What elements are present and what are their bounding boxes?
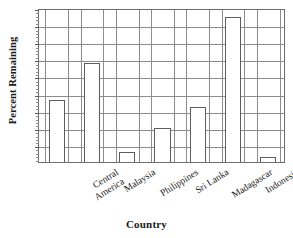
gridline-horizontal xyxy=(39,27,284,28)
y-tick-mark xyxy=(35,44,39,45)
bar xyxy=(84,63,100,162)
gridline-horizontal xyxy=(39,113,284,114)
y-minor-tick-mark xyxy=(36,137,39,138)
y-tick-mark xyxy=(35,96,39,97)
y-minor-tick-mark xyxy=(36,154,39,155)
y-minor-tick-mark xyxy=(36,143,39,144)
y-minor-tick-mark xyxy=(36,140,39,141)
y-minor-tick-mark xyxy=(36,157,39,158)
y-minor-tick-mark xyxy=(36,109,39,110)
gridline-vertical xyxy=(186,10,187,162)
y-minor-tick-mark xyxy=(36,92,39,93)
x-tick-label: Sri Lanka xyxy=(193,167,230,196)
bar xyxy=(190,107,206,162)
gridline-vertical xyxy=(139,10,140,162)
y-minor-tick-mark xyxy=(36,20,39,21)
y-minor-tick-mark xyxy=(36,99,39,100)
bar xyxy=(119,152,135,162)
x-tick-label-line: Sri Lanka xyxy=(193,167,230,196)
y-tick-mark xyxy=(35,27,39,28)
y-tick-mark xyxy=(35,130,39,131)
gridline-horizontal xyxy=(39,78,284,79)
gridline-horizontal xyxy=(39,61,284,62)
y-minor-tick-mark xyxy=(36,102,39,103)
y-minor-tick-mark xyxy=(36,126,39,127)
gridline-vertical xyxy=(68,10,69,162)
y-tick-mark xyxy=(35,147,39,148)
y-tick-mark xyxy=(35,10,39,11)
x-tick-label: Philippines xyxy=(159,167,201,199)
x-tick-label: CentralAmerica xyxy=(87,167,126,202)
y-minor-tick-mark xyxy=(36,85,39,86)
bar xyxy=(225,17,241,162)
gridline-horizontal xyxy=(39,44,284,45)
y-minor-tick-mark xyxy=(36,106,39,107)
y-minor-tick-mark xyxy=(36,82,39,83)
y-tick-mark xyxy=(35,113,39,114)
gridline-vertical xyxy=(222,10,223,162)
y-minor-tick-mark xyxy=(36,41,39,42)
y-minor-tick-mark xyxy=(36,51,39,52)
y-minor-tick-mark xyxy=(36,48,39,49)
x-axis-title: Country xyxy=(0,218,293,230)
bar xyxy=(49,100,65,162)
y-minor-tick-mark xyxy=(36,31,39,32)
y-tick-mark xyxy=(35,61,39,62)
y-minor-tick-mark xyxy=(36,89,39,90)
y-minor-tick-mark xyxy=(36,13,39,14)
gridline-vertical xyxy=(103,10,104,162)
gridline-vertical xyxy=(280,10,281,162)
bar xyxy=(154,128,170,162)
y-minor-tick-mark xyxy=(36,116,39,117)
y-minor-tick-mark xyxy=(36,68,39,69)
gridline-vertical xyxy=(81,10,82,162)
gridline-vertical xyxy=(174,10,175,162)
y-minor-tick-mark xyxy=(36,133,39,134)
y-minor-tick-mark xyxy=(36,120,39,121)
y-minor-tick-mark xyxy=(36,34,39,35)
x-tick-label: Malaysia xyxy=(122,167,157,194)
bar xyxy=(260,157,276,162)
y-minor-tick-mark xyxy=(36,161,39,162)
y-minor-tick-mark xyxy=(36,75,39,76)
gridline-vertical xyxy=(209,10,210,162)
y-tick-mark xyxy=(35,78,39,79)
y-minor-tick-mark xyxy=(36,123,39,124)
x-tick-label-line: Philippines xyxy=(159,167,201,199)
y-minor-tick-mark xyxy=(36,65,39,66)
y-minor-tick-mark xyxy=(36,150,39,151)
gridline-vertical xyxy=(257,10,258,162)
gridline-vertical xyxy=(151,10,152,162)
gridline-horizontal xyxy=(39,96,284,97)
y-minor-tick-mark xyxy=(36,17,39,18)
plot-area xyxy=(38,9,285,163)
y-axis-title: Percent Remaining xyxy=(7,16,18,146)
gridline-vertical xyxy=(45,10,46,162)
y-minor-tick-mark xyxy=(36,54,39,55)
bar-chart-figure: Percent Remaining 51015202530354045 Cent… xyxy=(0,0,293,238)
y-minor-tick-mark xyxy=(36,72,39,73)
gridline-vertical xyxy=(244,10,245,162)
x-tick-label-line: Malaysia xyxy=(122,167,157,194)
y-minor-tick-mark xyxy=(36,24,39,25)
y-minor-tick-mark xyxy=(36,58,39,59)
gridline-vertical xyxy=(116,10,117,162)
y-minor-tick-mark xyxy=(36,37,39,38)
